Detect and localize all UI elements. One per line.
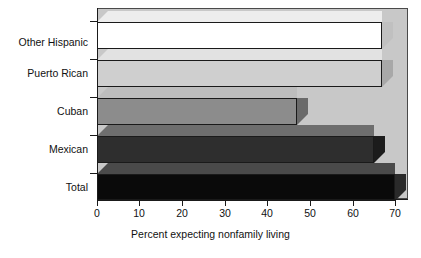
category-label-cuban: Cuban xyxy=(0,105,88,117)
bar-top-face-cuban xyxy=(97,87,297,98)
value-axis-tick-label-70: 70 xyxy=(380,207,410,220)
category-label-puerto-rican: Puerto Rican xyxy=(0,67,88,79)
category-label-total: Total xyxy=(0,181,88,193)
bar-top-face-mexican xyxy=(97,125,374,136)
value-axis-tick-label-20: 20 xyxy=(167,207,197,220)
category-axis-tick xyxy=(90,135,98,136)
value-axis-tick xyxy=(182,199,183,206)
category-axis-tick xyxy=(90,59,98,60)
category-axis-tick xyxy=(90,21,98,22)
bar-top-face-total xyxy=(97,163,395,174)
category-axis-line xyxy=(97,8,98,199)
value-axis-tick xyxy=(97,199,98,206)
value-axis-tick xyxy=(225,199,226,206)
category-label-mexican: Mexican xyxy=(0,143,88,155)
bar-front-face-cuban xyxy=(97,98,297,125)
value-axis-tick-label-10: 10 xyxy=(124,207,154,220)
value-axis-line xyxy=(97,199,408,200)
bar-front-face-puerto-rican xyxy=(97,60,382,87)
value-axis-tick-label-30: 30 xyxy=(210,207,240,220)
bar-top-face-other-hispanic xyxy=(97,11,382,22)
value-axis-tick xyxy=(353,199,354,206)
value-axis-tick xyxy=(139,199,140,206)
value-axis-title: Percent expecting nonfamily living xyxy=(0,228,421,240)
value-axis-tick-label-50: 50 xyxy=(295,207,325,220)
value-axis-tick-label-60: 60 xyxy=(338,207,368,220)
value-axis-tick xyxy=(310,199,311,206)
bar-front-face-total xyxy=(97,174,395,201)
value-axis-tick-label-0: 0 xyxy=(82,207,112,220)
category-axis-labels: Other Hispanic Puerto Rican Cuban Mexica… xyxy=(0,0,88,210)
value-axis-tick xyxy=(395,199,396,206)
value-axis-tick xyxy=(267,199,268,206)
category-axis-tick xyxy=(90,97,98,98)
bar-top-face-puerto-rican xyxy=(97,49,382,60)
bar-front-face-mexican xyxy=(97,136,374,163)
bar-chart-figure: Other Hispanic Puerto Rican Cuban Mexica… xyxy=(0,0,421,258)
bar-front-face-other-hispanic xyxy=(97,22,382,49)
category-axis-tick xyxy=(90,173,98,174)
category-label-other-hispanic: Other Hispanic xyxy=(0,36,88,48)
value-axis-tick-label-40: 40 xyxy=(252,207,282,220)
